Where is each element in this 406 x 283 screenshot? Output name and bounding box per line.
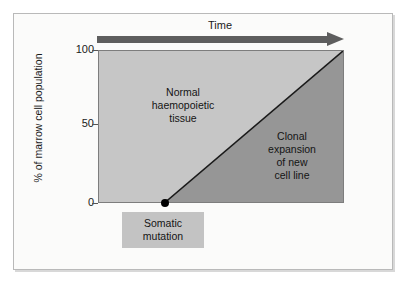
y-tick-label-100: 100 (4, 44, 94, 55)
clonal-expansion-label-line-2: expansion (248, 143, 336, 156)
normal-tissue-label-line-2: haemopoietic (128, 99, 238, 112)
clonal-expansion-label: Clonal expansion of new cell line (248, 130, 336, 182)
normal-tissue-label: Normal haemopoietic tissue (128, 86, 238, 125)
y-tick-label-0: 0 (4, 197, 94, 208)
somatic-mutation-label-line-1: Somatic (143, 217, 183, 230)
time-arrow-head-icon (327, 32, 344, 46)
clonal-expansion-label-line-3: of new (248, 156, 336, 169)
normal-tissue-label-line-1: Normal (128, 86, 238, 99)
somatic-mutation-point-marker (161, 199, 169, 207)
clonal-expansion-label-line-1: Clonal (248, 130, 336, 143)
somatic-mutation-callout-text: Somatic mutation (143, 217, 183, 243)
normal-tissue-label-line-3: tissue (128, 112, 238, 125)
chart-canvas: Time % of marrow cell population 100 50 … (0, 0, 406, 283)
y-tick-mark-0 (92, 203, 98, 204)
figure-page: Time % of marrow cell population 100 50 … (0, 0, 406, 283)
somatic-mutation-callout: Somatic mutation (122, 212, 204, 248)
somatic-mutation-label-line-2: mutation (143, 230, 183, 243)
time-axis-label: Time (97, 19, 343, 31)
time-arrow-shaft (97, 36, 329, 43)
y-tick-label-50: 50 (4, 118, 94, 129)
clonal-expansion-label-line-4: cell line (248, 169, 336, 182)
